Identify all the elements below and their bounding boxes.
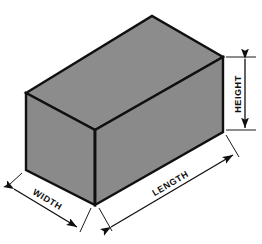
box-dimension-diagram: HEIGHT LENGTH WIDTH (0, 0, 262, 244)
width-extension-line-near (9, 173, 22, 185)
width-extension-line-far (80, 208, 91, 232)
length-extension-line-near (99, 208, 112, 231)
box-illustration: HEIGHT LENGTH WIDTH (0, 0, 262, 244)
height-dimension: HEIGHT (226, 57, 256, 130)
box-body (26, 16, 223, 205)
height-label: HEIGHT (233, 75, 243, 113)
width-label: WIDTH (31, 187, 64, 212)
length-extension-line-far (226, 135, 239, 157)
